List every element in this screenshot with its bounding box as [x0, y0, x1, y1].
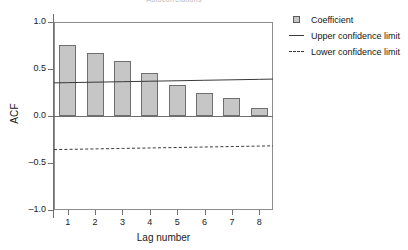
legend-item-upper-confidence-limit: Upper confidence limit [286, 28, 406, 43]
y-axis-tick [48, 163, 53, 164]
x-axis-tick [205, 210, 206, 215]
y-axis-tick-label: 0.5 [16, 63, 46, 73]
y-axis-tick [48, 116, 53, 117]
x-axis-tick-label: 3 [112, 217, 132, 227]
x-axis-tick-label: 8 [249, 217, 269, 227]
legend-item-lower-confidence-limit: Lower confidence limit [286, 44, 406, 59]
solid-line-icon [286, 30, 306, 42]
upper-confidence-line [54, 79, 273, 83]
lower-confidence-line [54, 146, 273, 150]
dashed-line-icon [286, 46, 306, 58]
x-axis-tick-label: 4 [140, 217, 160, 227]
legend-label: Upper confidence limit [306, 31, 400, 41]
legend-label: Lower confidence limit [306, 47, 400, 57]
x-axis-tick-label: 1 [58, 217, 78, 227]
y-axis-tick-label: 0.0 [16, 110, 46, 120]
y-axis-tick-label: –1.0 [16, 204, 46, 214]
chart-legend: Coefficient Upper confidence limit Lower… [286, 12, 406, 60]
x-axis-tick-label: 6 [195, 217, 215, 227]
x-axis-tick [150, 210, 151, 215]
x-axis-tick [232, 210, 233, 215]
y-axis-tick [48, 22, 53, 23]
y-axis-tick-label: –0.5 [16, 157, 46, 167]
legend-label: Coefficient [306, 15, 353, 25]
y-axis-tick [48, 210, 53, 211]
x-axis-tick-label: 2 [85, 217, 105, 227]
chart-title: Autocorrelations [104, 0, 244, 3]
x-axis-tick-label: 5 [167, 217, 187, 227]
x-axis-tick [177, 210, 178, 215]
x-axis-tick-label: 7 [222, 217, 242, 227]
x-axis-tick [95, 210, 96, 215]
legend-item-coefficient: Coefficient [286, 12, 406, 27]
y-axis-tick-label: 1.0 [16, 16, 46, 26]
y-axis-tick [48, 69, 53, 70]
x-axis-title: Lag number [54, 232, 273, 243]
x-axis-tick [259, 210, 260, 215]
x-axis-tick [68, 210, 69, 215]
confidence-limit-lines [54, 22, 273, 210]
y-axis-title: ACF [9, 84, 20, 144]
chart-root: Autocorrelations 1.00.50.0–0.5–1.0 ACF 1… [0, 0, 408, 250]
swatch-icon [286, 14, 306, 26]
x-axis-tick [122, 210, 123, 215]
